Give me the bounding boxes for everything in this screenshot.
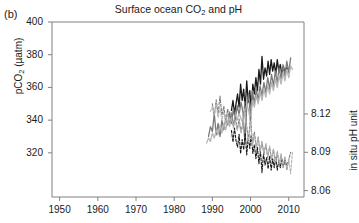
y-tick-label-left: 340 [13,114,43,125]
x-tick-label: 1980 [154,204,194,215]
axes-group [48,22,308,201]
x-tick-label: 1970 [116,204,156,215]
y-tick-label-left: 380 [13,49,43,60]
y-tick-label-left: 400 [13,16,43,27]
y-tick-label-right: 8.09 [311,146,345,157]
y-tick-label-left: 360 [13,81,43,92]
x-tick-label: 2010 [269,204,309,215]
y-tick-label-right: 8.12 [311,108,345,119]
x-tick-label: 1960 [78,204,118,215]
x-tick-label: 2000 [231,204,271,215]
y-tick-label-right: 8.06 [311,185,345,196]
y-tick-label-left: 320 [13,147,43,158]
data-series-group [207,56,293,174]
x-tick-label: 1950 [40,204,80,215]
x-tick-label: 1990 [192,204,232,215]
